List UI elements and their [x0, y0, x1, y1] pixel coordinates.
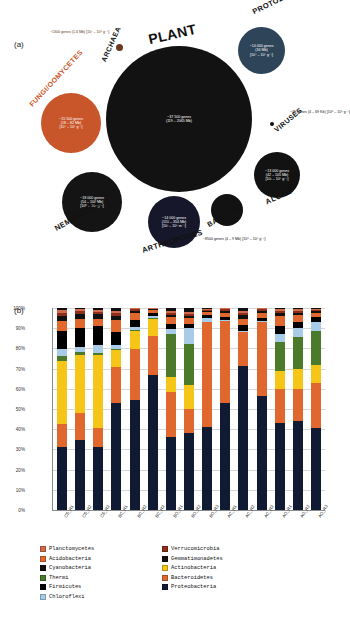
bar-segment-proteobacteria: [275, 423, 285, 510]
bar-segment-proteobacteria: [93, 447, 103, 510]
bacteria-abundance: [10⁸ – 10⁹ g⁻¹]: [242, 237, 265, 241]
bar-segment-bacteroidetes: [184, 409, 194, 433]
bar-segment-firmicutes: [75, 328, 85, 347]
bar-segment-acidobacteria: [130, 313, 140, 320]
bar-bo_r2[interactable]: [184, 308, 194, 510]
bar-segment-bacteroidetes: [311, 383, 321, 427]
legend-item-bacteroidetes[interactable]: Bacteroidetes: [162, 575, 282, 581]
bar-segment-actinobacteria: [275, 371, 285, 389]
bar-bc_r2[interactable]: [130, 308, 140, 510]
legend-label: Proteobacteria: [171, 584, 216, 590]
legend-swatch: [162, 565, 168, 571]
bar-segment-actinobacteria: [57, 361, 67, 425]
legend-item-cyanobacteria[interactable]: Cyanobacteria: [40, 565, 152, 571]
plot-area: [52, 308, 325, 511]
bar-ac_r1[interactable]: [220, 308, 230, 510]
bar-ac_r3[interactable]: [257, 308, 267, 510]
bar-segment-chloroflexi: [184, 328, 194, 344]
legend-swatch: [162, 575, 168, 581]
bar-bo_r1[interactable]: [166, 308, 176, 510]
bar-segment-acidobacteria: [57, 321, 67, 331]
bar-segment-actinobacteria: [148, 319, 158, 336]
bar-segment-actinobacteria: [184, 385, 194, 409]
legend-item-proteobacteria[interactable]: Proteobacteria: [162, 584, 282, 590]
bar-segment-bacteroidetes: [238, 332, 248, 365]
legend-label: Planctomycetes: [49, 546, 94, 552]
legend-item-actinobacteria[interactable]: Actinobacteria: [162, 565, 282, 571]
bar-segment-bacteroidetes: [257, 322, 267, 396]
legend-item-acidobacteria[interactable]: Acidobacteria: [40, 556, 152, 562]
arthropodes-abundance: [10² – 10⁵ m⁻²]: [162, 224, 186, 228]
y-axis-tick: 70%: [0, 366, 25, 371]
bar-segment-firmicutes: [130, 320, 140, 327]
bar-bc_r1[interactable]: [111, 308, 121, 510]
legend-swatch: [40, 546, 46, 552]
viruses-size: (4 – 69 Kb): [308, 110, 326, 114]
bar-segment-chloroflexi: [293, 328, 303, 337]
bar-segment-bacteroidetes: [202, 322, 212, 427]
bar-cs_r2[interactable]: [75, 308, 85, 510]
bar-segment-bacteroidetes: [166, 392, 176, 437]
bar-segment-chloroflexi: [311, 322, 321, 331]
bar-segment-actinobacteria: [75, 355, 85, 413]
legend-swatch: [162, 584, 168, 590]
bar-segment-chloroflexi: [93, 345, 103, 353]
legend-item-thermi[interactable]: Thermi: [40, 575, 152, 581]
y-axis-tick: 80%: [0, 346, 25, 351]
bar-segment-bacteroidetes: [275, 389, 285, 423]
viruses-note: ~45 genes (4 – 69 Kb) [10⁸ – 10⁹ g⁻¹]: [290, 110, 340, 114]
bar-ao_r1[interactable]: [275, 308, 285, 510]
bar-segment-proteobacteria: [293, 421, 303, 510]
bar-ao_r3[interactable]: [311, 308, 321, 510]
bar-segment-bacteroidetes: [111, 367, 121, 403]
bar-segment-thermi: [275, 342, 285, 370]
archaea-note: ~1300 genes (1.6 Mb) [10⁷ – 10⁸ g⁻¹]: [50, 30, 106, 34]
bar-bc_r3[interactable]: [148, 308, 158, 510]
y-axis-tick: 30%: [0, 447, 25, 452]
bar-ac_r2[interactable]: [238, 308, 248, 510]
y-axis-tick: 50%: [0, 407, 25, 412]
bar-segment-firmicutes: [111, 332, 121, 345]
fungi-abundance: [10⁴ – 10⁶ g⁻¹]: [59, 125, 82, 129]
bar-segment-proteobacteria: [220, 403, 230, 510]
bar-bo_r3[interactable]: [202, 308, 212, 510]
y-axis-tick: 20%: [0, 467, 25, 472]
bar-segment-firmicutes: [93, 326, 103, 345]
y-axis-tick: 40%: [0, 427, 25, 432]
bar-segment-actinobacteria: [166, 377, 176, 392]
bar-segment-acidobacteria: [75, 319, 85, 328]
legend-label: Firmicutes: [49, 584, 81, 590]
bar-cs_r3[interactable]: [93, 308, 103, 510]
legend-swatch: [40, 594, 46, 600]
legend-item-gemmatimonadetes[interactable]: Gemmatimonadetes: [162, 556, 282, 562]
bar-segment-bacteroidetes: [57, 424, 67, 447]
bar-segment-thermi: [166, 334, 176, 376]
protozoa-abundance: [10⁴ – 10⁵ g⁻¹]: [250, 53, 273, 57]
legend-label: Thermi: [49, 575, 68, 581]
y-axis-tick: 90%: [0, 326, 25, 331]
bar-segment-bacteroidetes: [148, 336, 158, 374]
bar-segment-proteobacteria: [166, 437, 176, 510]
bubble-archaea: [116, 44, 123, 51]
legend-swatch: [162, 546, 168, 552]
legend-item-firmicutes[interactable]: Firmicutes: [40, 584, 152, 590]
legend-item-verrucomicrobia[interactable]: Verrucomicrobia: [162, 546, 282, 552]
bar-segment-proteobacteria: [148, 375, 158, 510]
y-axis-tick: 10%: [0, 487, 25, 492]
bar-segment-bacteroidetes: [75, 413, 85, 440]
bar-segment-acidobacteria: [293, 315, 303, 322]
bar-cs_r1[interactable]: [57, 308, 67, 510]
bar-segment-actinobacteria: [93, 355, 103, 428]
bar-segment-actinobacteria: [111, 350, 121, 366]
chart-legend: PlanctomycetesVerrucomicrobiaAcidobacter…: [40, 546, 310, 600]
bar-segment-proteobacteria: [111, 403, 121, 510]
legend-item-chloroflexi[interactable]: Chloroflexi: [40, 594, 152, 600]
bar-ao_r2[interactable]: [293, 308, 303, 510]
bacteria-genes: ~8500 genes: [203, 237, 224, 241]
y-axis-tick: 60%: [0, 386, 25, 391]
panel-a-tag: (a): [14, 40, 24, 49]
algae-abundance: [10³ – 10⁶ g⁻¹]: [266, 177, 289, 181]
legend-item-planctomycetes[interactable]: Planctomycetes: [40, 546, 152, 552]
bar-segment-proteobacteria: [257, 396, 267, 510]
legend-swatch: [40, 584, 46, 590]
